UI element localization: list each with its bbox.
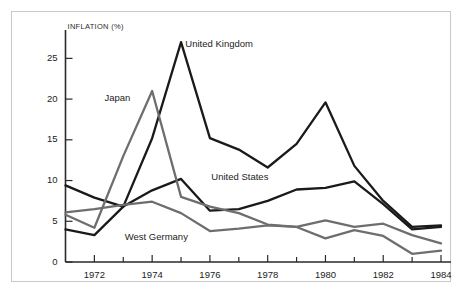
x-tick-label: 1978	[244, 269, 292, 280]
x-tick-label: 1972	[70, 269, 118, 280]
x-tick-label: 1976	[186, 269, 234, 280]
x-tick-label: 1980	[301, 269, 349, 280]
y-tick-label: 5	[26, 215, 58, 226]
y-tick-label: 10	[26, 174, 58, 185]
x-tick-label: 1982	[359, 269, 407, 280]
figure-container: INFLATION (%) 0510152025 197219741976197…	[0, 0, 468, 307]
series-label-japan: Japan	[104, 92, 130, 103]
series-label-united-kingdom: United Kingdom	[185, 38, 253, 49]
y-tick-label: 0	[26, 256, 58, 267]
series-line-japan	[66, 91, 442, 243]
x-tick-label: 1974	[128, 269, 176, 280]
y-tick-label: 15	[26, 133, 58, 144]
data-series-group	[66, 42, 442, 254]
y-tick-label: 25	[26, 52, 58, 63]
y-tick-label: 20	[26, 93, 58, 104]
y-axis-title: INFLATION (%)	[68, 22, 124, 31]
series-label-united-states: United States	[211, 171, 268, 182]
x-tick-label: 1984	[417, 269, 465, 280]
series-label-west-germany: West Germany	[125, 231, 188, 242]
